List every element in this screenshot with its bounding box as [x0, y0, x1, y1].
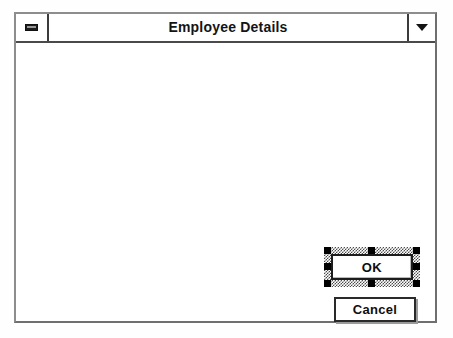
- dialog-window: Employee Details OK: [14, 12, 437, 323]
- title-text-container: Employee Details: [49, 14, 407, 41]
- page-canvas: Employee Details OK: [0, 0, 453, 338]
- resize-handle-w[interactable]: [324, 263, 331, 270]
- resize-handle-e[interactable]: [413, 263, 420, 270]
- resize-handle-n[interactable]: [368, 247, 375, 254]
- chevron-down-icon: [416, 24, 428, 31]
- system-menu-button[interactable]: [16, 14, 49, 41]
- ok-button-selection-group[interactable]: OK: [324, 247, 420, 287]
- resize-handle-nw[interactable]: [324, 247, 331, 254]
- restore-button[interactable]: [407, 14, 435, 41]
- title-bar[interactable]: Employee Details: [16, 14, 435, 43]
- minimize-bar-icon: [25, 24, 38, 31]
- window-title: Employee Details: [168, 19, 287, 35]
- cancel-button-label: Cancel: [353, 302, 397, 317]
- resize-handle-s[interactable]: [368, 280, 375, 287]
- ok-button[interactable]: OK: [331, 254, 413, 280]
- dialog-client-area: OK Cancel: [16, 43, 435, 321]
- resize-handle-ne[interactable]: [413, 247, 420, 254]
- cancel-button[interactable]: Cancel: [334, 297, 416, 322]
- ok-button-label: OK: [362, 260, 383, 275]
- resize-handle-sw[interactable]: [324, 280, 331, 287]
- resize-handle-se[interactable]: [413, 280, 420, 287]
